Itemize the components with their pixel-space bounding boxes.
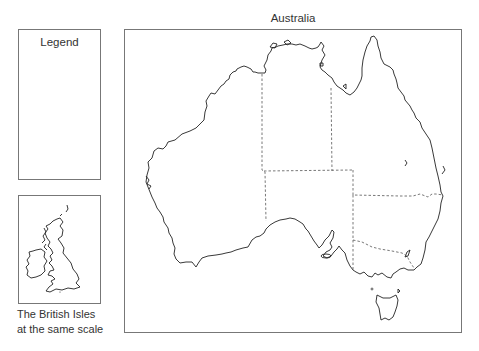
british-isles-outline xyxy=(26,205,80,293)
tasmania-coastline xyxy=(376,295,398,320)
state-borders xyxy=(262,74,443,271)
australia-coastline xyxy=(146,36,443,278)
map-drawing xyxy=(0,0,479,351)
